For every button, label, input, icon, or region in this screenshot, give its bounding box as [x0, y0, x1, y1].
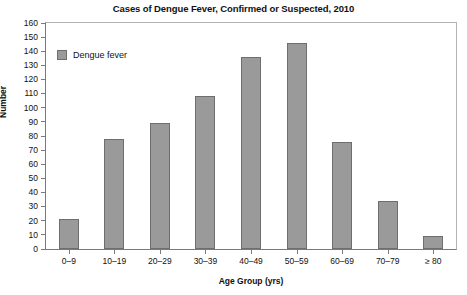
x-tick-mark [205, 250, 206, 254]
x-axis-labels: 0–910–1920–2930–3940–4950–5960–6970–79≥ … [46, 256, 456, 266]
y-tick-label: 80 [29, 132, 41, 141]
x-tick-mark [433, 250, 434, 254]
x-tick-mark [114, 250, 115, 254]
bar-slot [319, 23, 365, 249]
bar-60-69 [332, 142, 352, 249]
bar-0-9 [59, 219, 79, 249]
x-tick-label: 30–39 [183, 256, 229, 266]
bar-30-39 [195, 96, 215, 249]
bar-80 [423, 236, 443, 249]
x-tick-label: ≥ 80 [411, 256, 457, 266]
x-tick-label: 20–29 [137, 256, 183, 266]
chart-title: Cases of Dengue Fever, Confirmed or Susp… [0, 3, 467, 14]
y-tick-label: 130 [24, 61, 41, 70]
y-axis-ticks: 0102030405060708090100110120130140150160 [0, 0, 45, 250]
y-tick-label: 0 [33, 245, 41, 254]
x-tick-mark [342, 250, 343, 254]
bar-40-49 [241, 57, 261, 249]
legend-swatch-dengue-fever [57, 50, 67, 60]
x-tick-label: 50–59 [274, 256, 320, 266]
y-tick-label: 160 [24, 19, 41, 28]
x-axis-title: Age Group (yrs) [45, 276, 457, 286]
y-tick-label: 90 [29, 118, 41, 127]
x-tick-mark [251, 250, 252, 254]
y-tick-label: 10 [29, 231, 41, 240]
y-tick-label: 60 [29, 160, 41, 169]
x-tick-label: 70–79 [365, 256, 411, 266]
x-tick-mark [388, 250, 389, 254]
x-tick-label: 10–19 [92, 256, 138, 266]
y-tick-label: 70 [29, 146, 41, 155]
y-tick-label: 40 [29, 188, 41, 197]
y-tick-label: 30 [29, 202, 41, 211]
x-tick-mark [297, 250, 298, 254]
bar-slot [365, 23, 411, 249]
x-tick-label: 40–49 [228, 256, 274, 266]
x-tick-label: 0–9 [46, 256, 92, 266]
y-tick-label: 140 [24, 47, 41, 56]
x-tick-label: 60–69 [319, 256, 365, 266]
bar-50-59 [287, 43, 307, 249]
legend-label-dengue-fever: Dengue fever [73, 50, 127, 60]
dengue-fever-bar-chart: Cases of Dengue Fever, Confirmed or Susp… [0, 0, 467, 295]
y-tick-label: 120 [24, 75, 41, 84]
bar-slot [228, 23, 274, 249]
y-tick-label: 150 [24, 33, 41, 42]
x-tick-mark [69, 250, 70, 254]
x-tick-mark [160, 250, 161, 254]
y-tick-label: 110 [24, 89, 41, 98]
bar-70-79 [378, 201, 398, 249]
y-tick-label: 100 [24, 104, 41, 113]
bar-slot [183, 23, 229, 249]
bar-slot [411, 23, 457, 249]
y-tick-label: 20 [29, 217, 41, 226]
bar-20-29 [150, 123, 170, 249]
bar-10-19 [104, 139, 124, 249]
chart-legend: Dengue fever [57, 50, 127, 60]
bar-slot [137, 23, 183, 249]
y-tick-label: 50 [29, 174, 41, 183]
bar-slot [274, 23, 320, 249]
